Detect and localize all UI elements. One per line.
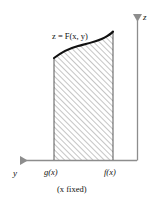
- right-bound-label: f(x): [104, 167, 116, 177]
- surface-equation-label: z = F(x, y): [52, 31, 88, 41]
- figure-caption: (x fixed): [57, 184, 87, 194]
- figure-container: z = F(x, y) y z g(x) f(x) (x fixed): [0, 0, 159, 198]
- y-axis-label: y: [12, 168, 17, 178]
- left-bound-label: g(x): [44, 167, 58, 177]
- z-axis-label: z: [142, 12, 147, 22]
- region-diagram-svg: z = F(x, y) y z g(x) f(x) (x fixed): [0, 0, 159, 198]
- shaded-region: [54, 32, 113, 161]
